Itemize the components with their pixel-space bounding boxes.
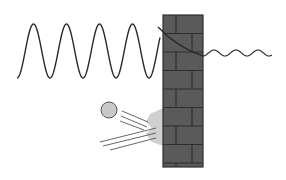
tunneling-diagram (0, 0, 286, 180)
background (0, 0, 286, 180)
ball-particle (101, 102, 117, 118)
